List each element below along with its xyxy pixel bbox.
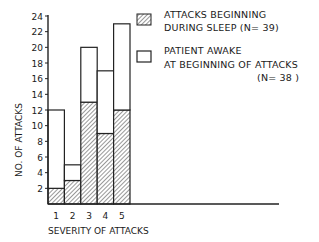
legend: ATTACKS BEGINNING DURING SLEEP (N= 39) P… [137, 9, 299, 83]
y-tick-label: 22 [32, 27, 43, 37]
y-tick-label: 14 [32, 90, 44, 100]
y-tick-label: 8 [37, 137, 43, 147]
x-tick-label: 4 [103, 211, 109, 221]
y-tick-label: 20 [32, 43, 44, 53]
legend-awake-line2: AT BEGINNING OF ATTACKS [164, 59, 298, 70]
bar-segment-awake-3 [81, 47, 97, 102]
legend-awake-line1: PATIENT AWAKE [164, 45, 242, 56]
bar-segment-sleep-5 [114, 110, 130, 204]
y-tick-label: 18 [32, 59, 44, 69]
y-tick-label: 24 [32, 12, 44, 22]
y-tick-label: 6 [37, 153, 43, 163]
y-tick-label: 16 [32, 74, 44, 84]
bar-segment-awake-2 [64, 165, 80, 181]
x-tick-label: 3 [86, 211, 92, 221]
legend-awake-line3: (N= 38 ) [257, 72, 299, 83]
y-tick-label: 12 [32, 106, 43, 116]
legend-sleep-line2: DURING SLEEP (N= 39) [164, 22, 279, 33]
legend-swatch-sleep [137, 14, 151, 25]
chart: 24681012141618202224 12345 NO. OF ATTACK… [0, 0, 319, 242]
bar-segment-awake-1 [48, 110, 64, 188]
x-axis: 12345 [48, 204, 279, 221]
x-axis-label: SEVERITY OF ATTACKS [48, 226, 149, 236]
y-tick-label: 2 [37, 184, 43, 194]
y-axis-label: NO. OF ATTACKS [14, 103, 24, 177]
bar-segment-awake-4 [97, 71, 113, 134]
x-tick-label: 2 [70, 211, 76, 221]
bar-segment-sleep-1 [48, 188, 64, 204]
bar-segment-sleep-3 [81, 102, 97, 204]
y-tick-label: 4 [37, 168, 43, 178]
x-tick-label: 1 [53, 211, 59, 221]
y-tick-label: 10 [32, 121, 44, 131]
legend-swatch-awake [137, 51, 151, 62]
bar-segment-awake-5 [114, 24, 130, 110]
x-tick-label: 5 [119, 211, 125, 221]
bars [48, 24, 130, 204]
bar-segment-sleep-2 [64, 181, 80, 205]
y-axis: 24681012141618202224 [32, 12, 48, 205]
bar-segment-sleep-4 [97, 134, 113, 205]
legend-sleep-line1: ATTACKS BEGINNING [164, 9, 266, 20]
